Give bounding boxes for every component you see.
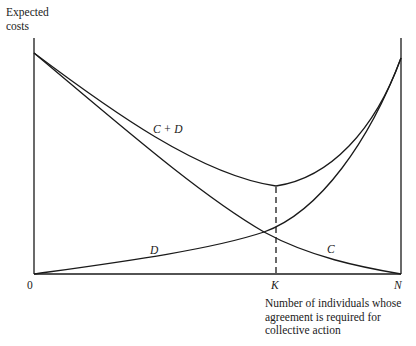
x-axis-label: Number of individuals whose agreement is… [265,297,401,338]
curve-d [34,58,401,274]
curve-label-c: C [327,243,335,256]
cost-diagram: Expected costs C + D D C 0 K N Number of… [0,0,416,346]
k-label: K [271,279,279,292]
origin-label: 0 [27,279,33,292]
curve-label-d: D [150,244,158,257]
diagram-canvas [0,0,416,346]
y-axis-label-line2: costs [6,20,29,33]
n-label: N [394,279,402,292]
curve-label-c-plus-d: C + D [153,123,183,136]
y-axis-label-line1: Expected [6,6,49,19]
curve-c-plus-d [34,53,401,186]
